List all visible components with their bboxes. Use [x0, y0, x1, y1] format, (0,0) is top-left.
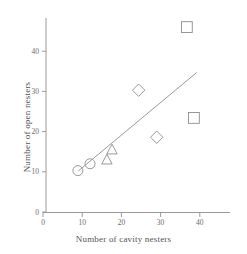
data-markers	[73, 22, 199, 176]
x-tick-label: 0	[41, 218, 45, 227]
y-tick-label: 20	[32, 127, 40, 136]
y-axis-title: Number of open nesters	[22, 47, 32, 207]
axes	[43, 18, 230, 213]
x-tick-label: 30	[157, 218, 165, 227]
data-point-square	[181, 22, 192, 33]
x-tick-label: 40	[196, 218, 204, 227]
data-point-square	[189, 113, 200, 124]
x-tick-label: 20	[118, 218, 126, 227]
data-point-diamond	[132, 84, 144, 96]
y-tick-label: 40	[32, 47, 40, 56]
y-tick-label: 10	[32, 167, 40, 176]
y-axis-ticks: 010203040	[32, 47, 47, 217]
fit-line	[78, 73, 196, 171]
scatter-plot-figure: 010203040 010203040 Number of cavity nes…	[0, 0, 247, 254]
regression-line	[78, 73, 196, 171]
x-axis-title: Number of cavity nesters	[0, 234, 247, 244]
plot-canvas: 010203040 010203040	[0, 0, 247, 254]
data-point-diamond	[150, 131, 162, 143]
y-tick-label: 0	[35, 208, 39, 217]
x-tick-label: 10	[78, 218, 86, 227]
data-point-triangle	[102, 154, 112, 164]
data-point-circle	[73, 166, 83, 176]
x-axis-ticks: 010203040	[41, 213, 204, 228]
y-tick-label: 30	[32, 87, 40, 96]
